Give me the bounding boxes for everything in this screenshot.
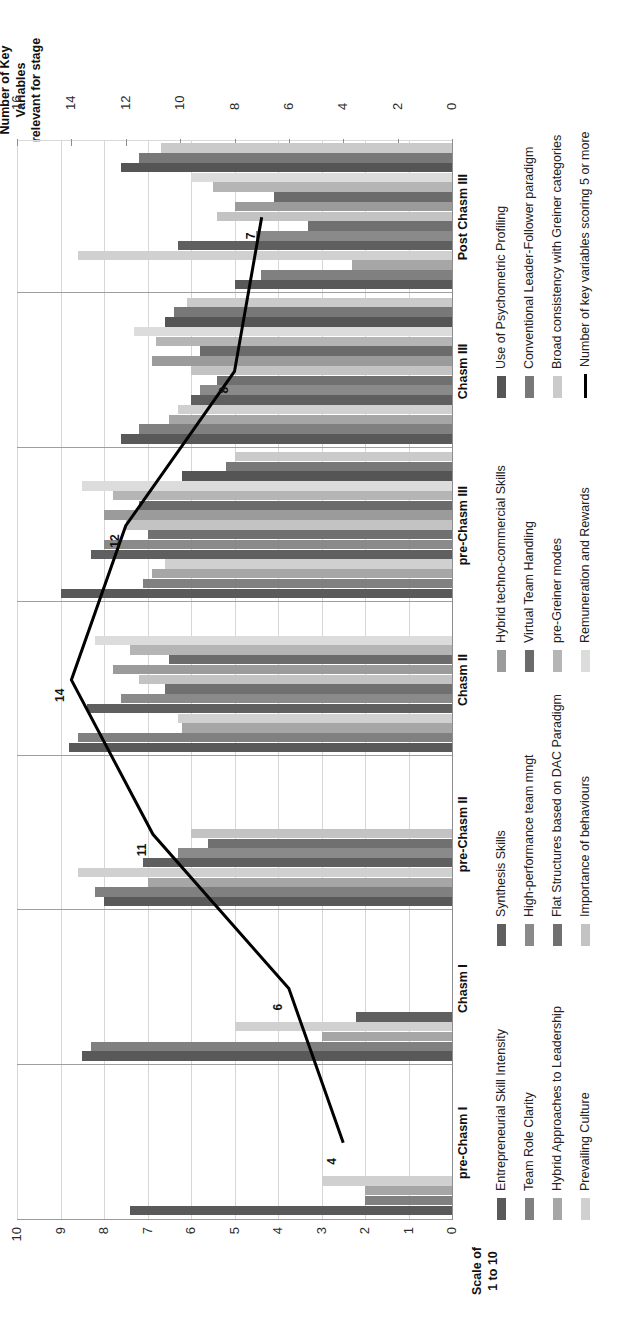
legend-item[interactable]: Conventional Leader-Follower paradigm [515,130,543,398]
primary-axis-title-line2: 1 to 10 [486,1251,500,1291]
legend-item[interactable]: pre-Greiner modes [543,404,571,672]
legend-item[interactable]: Number of key variables scoring 5 or mor… [571,130,599,398]
legend-item-label: Conventional Leader-Follower paradigm [522,147,536,369]
legend-color-swatch [553,650,562,672]
legend-item-label: Hybrid Approaches to Leadership [550,1006,564,1191]
legend-color-swatch [553,1198,562,1220]
secondary-axis-title-line3: relevant for stage [29,38,43,142]
legend-color-swatch [497,924,506,946]
legend-item-label: Prevailing Culture [578,1092,592,1191]
legend-color-swatch [525,924,534,946]
legend-color-swatch [581,1198,590,1220]
legend-item[interactable]: Virtual Team Handling [515,404,543,672]
primary-axis-tick-label: 9 [53,1227,68,1327]
primary-axis-tick-label: 2 [357,1227,372,1327]
legend-item-label: Use of Psychometric Profiling [494,206,508,369]
axis-baseline [452,139,453,1220]
legend-item-label: Synthesis Skills [494,830,508,917]
category-label: pre-Chasm I [456,1066,470,1220]
secondary-axis-tick-label: 2 [390,10,405,110]
line-series [71,217,343,1143]
legend-item[interactable]: Flat Structures based on DAC Paradigm [543,678,571,946]
legend-item[interactable]: Prevailing Culture [571,952,599,1220]
legend-item-label: Hybrid techno-commercial Skills [494,465,508,643]
legend-item-label: pre-Greiner modes [550,538,564,643]
rotated-figure-wrapper: Number of Key Variables relevant for sta… [0,0,631,1327]
secondary-axis-tick-label: 16 [9,10,24,110]
line-point-label: 4 [325,1158,339,1165]
category-label: Post Chasm III [456,140,470,294]
secondary-axis-tick-label: 12 [118,10,133,110]
line-point-label: 6 [271,1004,285,1011]
primary-axis-title: Scale of 1 to 10 [470,1223,501,1319]
legend-item[interactable]: Broad consistency with Greiner categorie… [543,130,571,398]
legend-item[interactable]: Hybrid Approaches to Leadership [543,952,571,1220]
legend-item-label: High-performance team mngt [522,754,536,917]
primary-axis-tick-label: 4 [270,1227,285,1327]
chart-figure: Number of Key Variables relevant for sta… [0,0,631,1327]
legend-item-label: Number of key variables scoring 5 or mor… [578,131,592,367]
line-series-overlay [17,140,452,1220]
legend-item[interactable]: Remuneration and Rewards [571,404,599,672]
category-label: Chasm II [456,603,470,757]
secondary-axis-tick-label: 14 [63,10,78,110]
chart-legend: Entrepreneurial Skill IntensitySynthesis… [487,130,617,1220]
category-label: Chasm I [456,911,470,1065]
primary-axis-tick-label: 0 [444,1227,459,1327]
legend-item-label: Flat Structures based on DAC Paradigm [550,694,564,917]
primary-axis-tick-label: 7 [140,1227,155,1327]
category-label: pre-Chasm III [456,449,470,603]
legend-color-swatch [581,650,590,672]
primary-axis-title-line1: Scale of [470,1247,484,1295]
line-point-label: 12 [108,534,122,547]
legend-item[interactable]: Synthesis Skills [487,678,515,946]
legend-item[interactable]: High-performance team mngt [515,678,543,946]
legend-color-swatch [553,924,562,946]
primary-axis-tick-label: 10 [9,1227,24,1327]
secondary-axis-tick-label: 4 [335,10,350,110]
legend-item[interactable]: Team Role Clarity [515,952,543,1220]
legend-item-label: Entrepreneurial Skill Intensity [494,1029,508,1191]
legend-color-swatch [497,1198,506,1220]
secondary-axis-tick-label: 6 [281,10,296,110]
legend-item-label: Team Role Clarity [522,1092,536,1191]
category-label: pre-Chasm II [456,757,470,911]
primary-axis-tick-label: 6 [183,1227,198,1327]
legend-color-swatch [525,376,534,398]
legend-item[interactable]: Importance of behaviours [571,678,599,946]
legend-color-swatch [581,924,590,946]
primary-axis-tick-label: 5 [227,1227,242,1327]
legend-item-label: Virtual Team Handling [522,521,536,643]
legend-color-swatch [553,376,562,398]
legend-item-label: Importance of behaviours [578,776,592,917]
secondary-axis-tick-label: 10 [172,10,187,110]
secondary-axis-tick-label: 8 [227,10,242,110]
legend-item[interactable]: Use of Psychometric Profiling [487,130,515,398]
line-point-label: 8 [217,387,231,394]
primary-axis-tick-label: 3 [314,1227,329,1327]
secondary-axis-tick-label: 0 [444,10,459,110]
legend-item[interactable]: Entrepreneurial Skill Intensity [487,952,515,1220]
legend-color-swatch [497,650,506,672]
primary-axis-tick-label: 8 [96,1227,111,1327]
legend-item-label: Remuneration and Rewards [578,487,592,643]
legend-item-label: Broad consistency with Greiner categorie… [550,135,564,369]
line-point-label: 11 [135,844,149,857]
line-point-label: 14 [53,689,67,702]
legend-color-swatch [525,1198,534,1220]
legend-color-swatch [525,650,534,672]
primary-axis-tick-label: 1 [401,1227,416,1327]
legend-color-swatch [497,376,506,398]
legend-item[interactable]: Hybrid techno-commercial Skills [487,404,515,672]
legend-line-swatch [584,374,587,398]
category-label: Chasm III [456,294,470,448]
line-point-label: 7 [244,232,258,239]
